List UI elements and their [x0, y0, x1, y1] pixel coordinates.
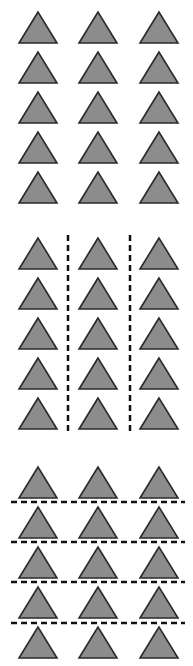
triangle-icon [79, 318, 117, 349]
triangle-icon [19, 627, 57, 658]
triangle-icon [140, 132, 178, 163]
triangle-icon [19, 547, 57, 578]
triangle-icon [19, 172, 57, 203]
triangle-icon [19, 467, 57, 498]
panel-grouped-by-rows [11, 467, 185, 658]
triangle-icon [19, 587, 57, 618]
triangle-icon [79, 278, 117, 309]
triangle-icon [140, 172, 178, 203]
triangle-icon [79, 547, 117, 578]
triangle-icon [140, 627, 178, 658]
triangle-icon [19, 52, 57, 83]
triangle-icon [140, 318, 178, 349]
triangle-icon [140, 547, 178, 578]
triangle-icon [140, 278, 178, 309]
triangle-icon [140, 92, 178, 123]
triangle-icon [79, 587, 117, 618]
triangle-icon [140, 358, 178, 389]
triangle-grouping-figure [0, 0, 193, 666]
panel-ungrouped [19, 12, 178, 203]
triangle-icon [19, 398, 57, 429]
triangle-icon [79, 358, 117, 389]
triangle-icon [140, 467, 178, 498]
triangle-icon [79, 507, 117, 538]
triangle-icon [79, 92, 117, 123]
triangle-icon [79, 627, 117, 658]
triangle-icon [79, 132, 117, 163]
triangle-icon [19, 358, 57, 389]
triangle-icon [19, 92, 57, 123]
panel-grouped-by-columns [19, 235, 178, 435]
triangle-icon [19, 278, 57, 309]
triangle-icon [79, 12, 117, 43]
triangle-icon [79, 172, 117, 203]
triangle-icon [140, 398, 178, 429]
triangle-icon [79, 238, 117, 269]
triangle-icon [79, 398, 117, 429]
triangle-icon [140, 52, 178, 83]
triangle-icon [19, 318, 57, 349]
triangle-icon [19, 507, 57, 538]
triangle-icon [79, 52, 117, 83]
triangle-icon [140, 507, 178, 538]
triangle-icon [19, 238, 57, 269]
triangle-icon [140, 12, 178, 43]
triangle-icon [140, 238, 178, 269]
triangle-icon [19, 132, 57, 163]
triangle-icon [79, 467, 117, 498]
triangle-icon [19, 12, 57, 43]
triangle-icon [140, 587, 178, 618]
